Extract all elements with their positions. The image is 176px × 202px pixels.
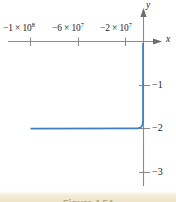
x-axis-label: x [166,34,170,44]
figure-container: −1 × 108 −6 × 107 −2 × 107 −1 −2 −3 y x … [0,0,176,202]
x-tick-label-2: −6 × 107 [52,24,84,33]
y-tick-label-minus-3: −3 [152,167,163,177]
y-axis-label: y [146,0,150,10]
x-tick-label-3: −2 × 107 [100,24,132,33]
x-tick-label-3-mantissa: −2 × 10 [100,23,129,33]
y-tick-label-minus-2: −2 [152,123,163,133]
curve-path [31,43,144,129]
figure-caption-band: Figure 4.54 [0,191,176,202]
x-tick-label-2-exponent: 7 [81,21,84,28]
x-axis-arrowhead [153,38,162,44]
x-tick-label-1: −1 × 108 [3,24,35,33]
x-tick-label-2-mantissa: −6 × 10 [52,23,81,33]
x-tick-label-3-exponent: 7 [129,21,132,28]
y-tick-label-minus-1: −1 [152,80,163,90]
figure-caption: Figure 4.54 [0,198,176,202]
x-tick-label-1-exponent: 8 [32,21,35,28]
x-tick-label-1-mantissa: −1 × 10 [3,23,32,33]
